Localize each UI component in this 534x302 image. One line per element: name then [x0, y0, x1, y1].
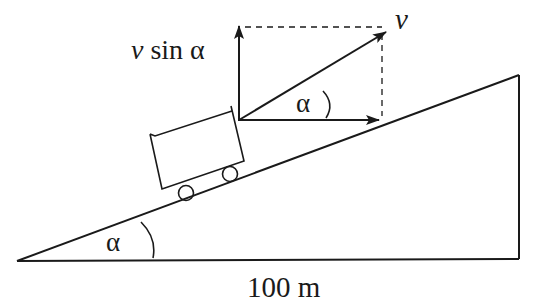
- velocity-label: v: [395, 3, 408, 35]
- vertical-component-v: v: [131, 34, 144, 65]
- incline-base: [17, 259, 519, 261]
- upper-angle-label: α: [296, 88, 310, 118]
- projection-lines: [245, 27, 382, 116]
- velocity-arrow: [239, 32, 386, 120]
- lower-angle-label: α: [106, 227, 120, 257]
- vertical-component-sin: sin α: [143, 34, 205, 65]
- lower-angle-arc: [141, 222, 154, 258]
- cart-body: [150, 106, 244, 189]
- inclined-plane-diagram: α α v v sin α 100 m: [0, 0, 534, 302]
- velocity-vectors: [239, 26, 386, 121]
- vertical-component-label: v sin α: [131, 34, 205, 65]
- cart-wheel-front: [223, 167, 238, 182]
- cart: [150, 106, 244, 201]
- upper-angle-arc: [323, 91, 330, 118]
- base-length-label: 100 m: [247, 271, 321, 302]
